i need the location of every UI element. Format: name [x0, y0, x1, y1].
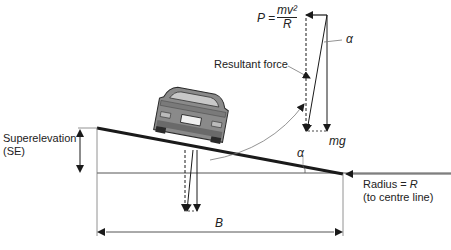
alpha-top-label: α [346, 33, 353, 46]
superelevation-diagram: P = mv² R α Resultant force mg α Superel… [0, 0, 451, 250]
resultant-leader [288, 66, 310, 78]
se-arrow-up-icon [76, 129, 84, 137]
formula-denominator: R [283, 18, 292, 31]
resultant-vector [307, 15, 327, 131]
mg-label: mg [329, 135, 346, 148]
superelevation-abbrev: (SE) [3, 145, 25, 158]
superelevation-label: Superelevation [3, 132, 76, 145]
se-arrow-down-icon [76, 165, 84, 173]
alpha-bottom-label: α [297, 147, 304, 160]
formula-lhs: P = [257, 12, 275, 25]
resultant-force-label: Resultant force [214, 58, 288, 71]
formula-numerator: mv² [277, 4, 297, 17]
car [153, 84, 231, 144]
radius-label: Radius = R [363, 178, 418, 191]
radius-sublabel: (to centre line) [363, 191, 433, 204]
b-label: B [215, 217, 223, 230]
diagram-graphics [0, 0, 451, 250]
car-resultant-force [187, 150, 193, 211]
